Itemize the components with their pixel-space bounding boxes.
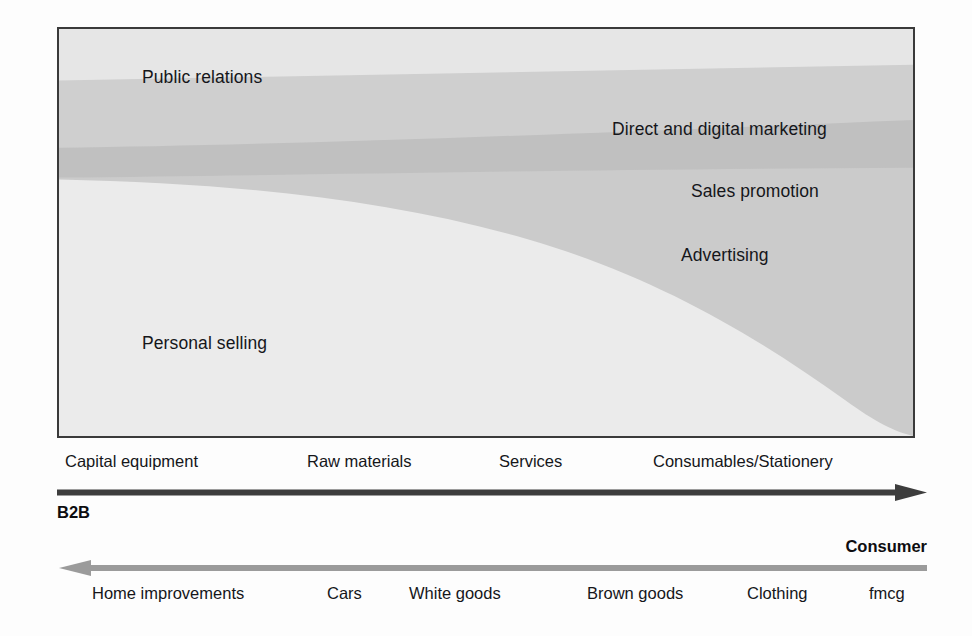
- b2b-category-raw-materials: Raw materials: [307, 452, 412, 471]
- stacked-area-chart: Public relations Direct and digital mark…: [57, 27, 915, 438]
- consumer-category-white-goods: White goods: [409, 584, 501, 603]
- consumer-category-brown-goods: Brown goods: [587, 584, 683, 603]
- consumer-category-clothing: Clothing: [747, 584, 808, 603]
- band-label-sales-promotion: Sales promotion: [691, 181, 819, 202]
- chart-bands-svg: [59, 29, 913, 436]
- consumer-axis: Home improvements Cars White goods Brown…: [57, 560, 927, 620]
- band-label-public-relations: Public relations: [142, 67, 262, 88]
- consumer-category-home-improvements: Home improvements: [92, 584, 244, 603]
- consumer-arrow-icon: [57, 560, 927, 576]
- b2b-arrow-icon: [57, 484, 927, 502]
- figure-page: Public relations Direct and digital mark…: [0, 0, 972, 636]
- consumer-category-labels: Home improvements Cars White goods Brown…: [57, 584, 927, 610]
- consumer-category-cars: Cars: [327, 584, 362, 603]
- b2b-category-consumables-stationery: Consumables/Stationery: [653, 452, 833, 471]
- b2b-axis-tag: B2B: [57, 503, 90, 522]
- band-label-advertising: Advertising: [681, 245, 769, 266]
- band-label-personal-selling: Personal selling: [142, 333, 267, 354]
- consumer-axis-tag: Consumer: [845, 537, 927, 556]
- band-label-direct-and-digital-marketing: Direct and digital marketing: [612, 119, 827, 140]
- b2b-axis: Capital equipment Raw materials Services…: [57, 452, 927, 524]
- consumer-category-fmcg: fmcg: [869, 584, 905, 603]
- b2b-category-labels: Capital equipment Raw materials Services…: [57, 452, 915, 478]
- b2b-category-services: Services: [499, 452, 562, 471]
- b2b-category-capital-equipment: Capital equipment: [65, 452, 198, 471]
